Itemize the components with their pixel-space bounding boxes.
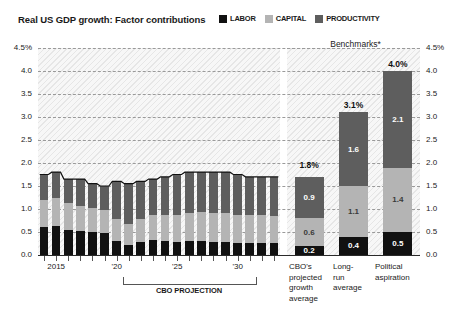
- bar-segment-labor: [257, 243, 266, 255]
- benchmark-total-label: 4.0%: [375, 59, 421, 69]
- benchmark-segment-prod: 1.6: [339, 112, 368, 186]
- benchmark-segment-labor: 0.5: [383, 232, 412, 255]
- bar-segment-capital: [161, 215, 170, 242]
- bar-segment-labor: [112, 241, 121, 255]
- x-tick: [189, 256, 190, 261]
- bar-segment-labor: [52, 226, 61, 255]
- bar-segment-labor: [173, 242, 182, 255]
- x-tick: [105, 256, 106, 261]
- bar-segment-capital: [197, 212, 206, 241]
- stacked-bar: [88, 184, 97, 255]
- bar-segment-prod: [173, 175, 182, 215]
- x-tick: [262, 256, 263, 261]
- y-tick-label-right: 0.0: [426, 250, 437, 259]
- bar-segment-prod: [112, 181, 121, 219]
- x-axis-labels: 2015'20'25'30: [38, 262, 280, 274]
- y-tick-label-right: 3.5: [426, 89, 437, 98]
- bar-segment-labor: [64, 230, 73, 255]
- caption-line: CBO's: [289, 262, 331, 273]
- caption-line: Political: [375, 262, 427, 273]
- bar-segment-labor: [149, 240, 158, 255]
- benchmark-segment-labor: 0.2: [295, 246, 324, 255]
- caption-line: growth: [289, 283, 331, 294]
- benchmark-stacked-bar: 0.51.42.1: [383, 71, 412, 255]
- benchmark-caption: CBO'sprojectedgrowthaverage: [289, 262, 331, 304]
- segment-value-label: 1.6: [348, 145, 359, 154]
- segment-value-label: 0.2: [304, 246, 315, 255]
- x-tick: [44, 256, 45, 261]
- page-title: Real US GDP growth: Factor contributions: [18, 14, 205, 25]
- x-tick: [92, 256, 93, 261]
- plot-area: 0.20.60.91.8%0.41.11.63.1%0.51.42.14.0%: [38, 48, 420, 255]
- bar-segment-labor: [185, 241, 194, 255]
- x-tick: [129, 256, 130, 261]
- caption-line: run: [333, 273, 375, 284]
- x-tick: [177, 256, 178, 261]
- square-swatch-icon: [315, 15, 323, 23]
- bar-segment-labor: [233, 243, 242, 255]
- bar-segment-prod: [136, 181, 145, 219]
- y-tick-label-right: 4.0: [426, 66, 437, 75]
- caption-line: projected: [289, 273, 331, 284]
- benchmarks-divider: [287, 48, 420, 49]
- legend-item-capital: CAPITAL: [265, 14, 307, 23]
- y-tick-label-right: 1.0: [426, 204, 437, 213]
- segment-value-label: 0.6: [304, 228, 315, 237]
- bar-segment-capital: [136, 219, 145, 242]
- benchmark-segment-capital: 0.6: [295, 218, 324, 246]
- projection-label: CBO PROJECTION: [123, 286, 255, 295]
- x-axis-label: '20: [111, 262, 121, 271]
- y-tick-label-right: 1.5: [426, 181, 437, 190]
- y-tick-label: 3.0: [21, 112, 32, 121]
- bar-segment-prod: [185, 172, 194, 212]
- bar-segment-labor: [161, 241, 170, 255]
- benchmark-caption: Politicalaspiration: [375, 262, 427, 283]
- segment-value-label: 1.4: [392, 195, 403, 204]
- stacked-bar: [100, 186, 109, 255]
- legend-item-productivity: PRODUCTIVITY: [315, 14, 379, 23]
- segment-value-label: 0.5: [392, 239, 403, 248]
- bar-segment-prod: [233, 175, 242, 215]
- y-tick-label: 1.0: [21, 204, 32, 213]
- bar-segment-prod: [209, 172, 218, 212]
- bar-segment-labor: [124, 245, 133, 255]
- y-tick-label: 2.0: [21, 158, 32, 167]
- bar-segment-prod: [76, 179, 85, 206]
- x-tick: [201, 256, 202, 261]
- stacked-bar: [257, 177, 266, 255]
- bar-segment-capital: [76, 206, 85, 231]
- bar-segment-prod: [100, 186, 109, 210]
- bar-segment-capital: [40, 200, 49, 228]
- stacked-bar: [76, 179, 85, 255]
- chart-legend: LABORCAPITALPRODUCTIVITY: [219, 14, 380, 23]
- y-tick-label: 2.5: [21, 135, 32, 144]
- legend-label: CAPITAL: [276, 14, 307, 23]
- bar-segment-capital: [112, 219, 121, 241]
- benchmark-stacked-bar: 0.20.60.9: [295, 172, 324, 255]
- caption-line: average: [333, 283, 375, 294]
- stacked-bar: [185, 172, 194, 255]
- benchmark-bars: 0.20.60.91.8%0.41.11.63.1%0.51.42.14.0%: [287, 48, 420, 255]
- bar-segment-labor: [221, 242, 230, 255]
- stacked-bar: [161, 177, 170, 255]
- bar-segment-capital: [233, 215, 242, 244]
- x-tick: [68, 256, 69, 261]
- bar-segment-labor: [40, 227, 49, 255]
- x-tick: [117, 256, 118, 261]
- x-axis-label: '30: [232, 262, 242, 271]
- benchmark-caption: Long-runaverage: [333, 262, 375, 294]
- y-axis-right: 4.5%4.03.53.02.52.01.51.00.50.0: [424, 48, 457, 255]
- segment-value-label: 0.4: [348, 241, 359, 250]
- bar-segment-labor: [76, 231, 85, 255]
- bar-segment-capital: [185, 213, 194, 242]
- benchmark-segment-prod: 0.9: [295, 177, 324, 218]
- x-tick: [165, 256, 166, 261]
- benchmark-segment-capital: 1.4: [383, 168, 412, 232]
- stacked-bar: [245, 177, 254, 255]
- bar-segment-capital: [257, 215, 266, 243]
- bar-segment-prod: [149, 179, 158, 215]
- bar-segment-prod: [161, 177, 170, 215]
- bar-segment-prod: [221, 172, 230, 212]
- stacked-bar: [112, 181, 121, 255]
- stacked-bar: [221, 172, 230, 255]
